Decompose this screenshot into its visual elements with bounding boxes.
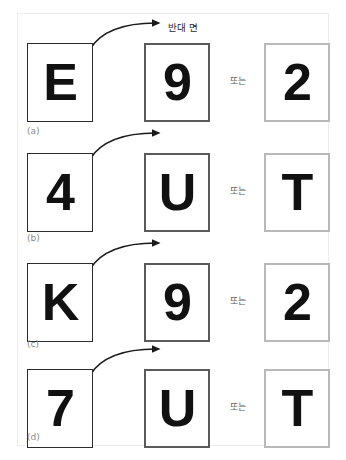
card-right-a: 2: [264, 43, 330, 122]
card-glyph: 9: [163, 276, 191, 328]
card-glyph: E: [43, 56, 77, 108]
or-label-b: 또는: [216, 184, 260, 197]
or-label-d: 또는: [216, 400, 260, 413]
card-right-b: T: [264, 153, 330, 232]
card-middle-b: U: [144, 153, 210, 232]
figure-row-c: K 9 또는 2: [0, 239, 346, 349]
card-glyph: T: [282, 166, 313, 218]
card-middle-a: 9: [144, 43, 210, 122]
card-glyph: U: [159, 382, 196, 434]
card-glyph: 4: [46, 166, 74, 218]
card-glyph: 9: [163, 56, 191, 108]
figure-row-b: 4 U 또는 T: [0, 129, 346, 239]
card-glyph: 7: [46, 382, 74, 434]
card-right-d: T: [264, 369, 330, 448]
row-caption-b: (b): [27, 233, 40, 243]
card-glyph: 2: [283, 276, 311, 328]
card-source-b: 4: [27, 153, 93, 232]
card-glyph: K: [42, 276, 79, 328]
card-glyph: U: [159, 166, 196, 218]
figure-canvas: 반대 면 E 9 또는 2 4 U 또는 T: [0, 0, 346, 460]
card-right-c: 2: [264, 263, 330, 342]
card-middle-d: U: [144, 369, 210, 448]
row-caption-d: (d): [27, 432, 40, 442]
card-middle-c: 9: [144, 263, 210, 342]
flip-side-label: 반대 면: [168, 20, 198, 34]
or-label-a: 또는: [216, 74, 260, 87]
card-source-a: E: [27, 43, 93, 122]
card-source-c: K: [27, 263, 93, 342]
row-caption-c: (c): [27, 339, 39, 349]
figure-row-d: 7 U 또는 T: [0, 345, 346, 455]
figure-row-a: 반대 면 E 9 또는 2: [0, 19, 346, 129]
or-label-c: 또는: [216, 294, 260, 307]
row-caption-a: (a): [27, 126, 40, 136]
card-glyph: 2: [283, 56, 311, 108]
card-glyph: T: [282, 382, 313, 434]
